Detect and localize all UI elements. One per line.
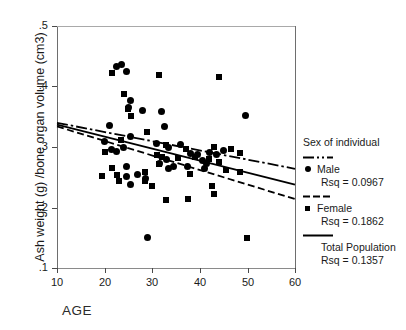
legend-rsq-total: Rsq = 0.1357	[321, 254, 406, 266]
legend-rsq-female: Rsq = 0.1862	[321, 215, 406, 227]
data-point-male	[127, 181, 134, 188]
y-axis-title: Ash weight (g) /bone organ volume (cm3)	[33, 17, 47, 277]
x-axis-title: AGE	[62, 303, 92, 318]
data-point-male	[127, 97, 134, 104]
data-point-female	[144, 129, 150, 135]
legend-label-female: Female	[317, 202, 352, 214]
data-point-male	[101, 138, 108, 145]
data-point-female	[109, 70, 115, 76]
x-axis-line	[57, 268, 296, 269]
data-point-female	[228, 146, 234, 152]
data-point-female	[216, 159, 222, 165]
data-point-female	[237, 150, 243, 156]
data-point-female	[211, 144, 217, 150]
data-point-female	[121, 91, 127, 97]
data-point-female	[163, 197, 169, 203]
legend-rsq-male: Rsq = 0.0967	[321, 176, 406, 188]
data-point-female	[156, 161, 162, 167]
legend-label-total: Total Population	[321, 241, 406, 253]
data-point-female	[206, 156, 212, 162]
x-tick-mark-5	[295, 268, 296, 273]
data-point-female	[187, 171, 193, 177]
plot-right-border	[295, 26, 296, 269]
data-point-male	[139, 107, 146, 114]
data-point-female	[159, 154, 165, 160]
data-point-male	[123, 68, 130, 75]
legend-swatch-male	[303, 153, 406, 162]
x-tick-label-5: 60	[280, 276, 310, 288]
data-point-female	[125, 106, 131, 112]
data-point-female	[183, 146, 189, 152]
data-point-female	[142, 178, 148, 184]
data-point-female	[128, 113, 134, 119]
legend-title: Sex of individual	[303, 136, 406, 148]
data-point-male	[161, 123, 168, 130]
data-point-female	[216, 74, 222, 80]
data-point-male	[134, 171, 141, 178]
x-tick-label-4: 50	[233, 276, 263, 288]
data-point-female	[102, 149, 108, 155]
legend-item-male: Male	[303, 163, 406, 175]
data-point-female	[192, 154, 198, 160]
data-point-female	[109, 165, 115, 171]
data-point-male	[242, 112, 249, 119]
legend: Sex of individual Male Rsq = 0.0967 Fema…	[303, 136, 406, 270]
data-point-male	[113, 148, 120, 155]
data-points-layer	[57, 26, 295, 268]
x-tick-mark-3	[200, 268, 201, 273]
data-point-female	[156, 72, 162, 78]
data-point-male	[170, 163, 177, 170]
x-tick-mark-4	[248, 268, 249, 273]
data-point-female	[223, 167, 229, 173]
legend-swatch-female	[303, 192, 406, 201]
data-point-female	[116, 178, 122, 184]
data-point-male	[123, 173, 130, 180]
data-point-male	[106, 122, 113, 129]
male-marker-icon	[303, 166, 312, 172]
data-point-female	[175, 155, 181, 161]
data-point-female	[244, 235, 250, 241]
x-tick-label-2: 30	[137, 276, 167, 288]
data-point-male	[120, 144, 127, 151]
scatter-plot-figure: .5 .4 .3 .2 .1 10 20 30 40 50 60 Ash wei…	[0, 0, 406, 330]
legend-label-male: Male	[317, 163, 340, 175]
data-point-male	[220, 147, 227, 154]
data-point-male	[201, 165, 208, 172]
data-point-male	[213, 151, 220, 158]
data-point-female	[118, 137, 124, 143]
data-point-female	[142, 169, 148, 175]
data-point-female	[237, 169, 243, 175]
data-point-female	[114, 172, 120, 178]
data-point-female	[185, 196, 191, 202]
data-point-male	[153, 140, 160, 147]
x-tick-label-3: 40	[185, 276, 215, 288]
x-tick-label-0: 10	[42, 276, 72, 288]
x-tick-mark-0	[57, 268, 58, 273]
legend-swatch-total	[303, 231, 406, 240]
legend-item-female: Female	[303, 202, 406, 214]
data-point-male	[144, 234, 151, 241]
x-tick-mark-2	[152, 268, 153, 273]
page-caption-remnant	[10, 322, 400, 328]
data-point-male	[158, 108, 165, 115]
female-marker-icon	[303, 206, 312, 211]
data-point-male	[184, 163, 191, 170]
data-point-female	[211, 191, 217, 197]
data-point-female	[99, 173, 105, 179]
x-tick-mark-1	[105, 268, 106, 273]
data-point-female	[209, 183, 215, 189]
x-tick-label-1: 20	[90, 276, 120, 288]
data-point-female	[149, 183, 155, 189]
data-point-male	[127, 133, 134, 140]
data-point-female	[163, 142, 169, 148]
data-point-male	[123, 163, 130, 170]
data-point-male	[118, 61, 125, 68]
